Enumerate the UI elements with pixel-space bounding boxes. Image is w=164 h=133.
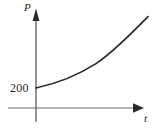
x-axis-label: t xyxy=(144,113,147,124)
y-axis-arrowhead-icon xyxy=(33,9,40,22)
exponential-curve xyxy=(36,17,148,88)
y-axis-label: P xyxy=(24,2,31,13)
graph-canvas xyxy=(0,0,164,133)
graph-figure: P t 200 xyxy=(0,0,164,133)
x-axis-arrowhead-icon xyxy=(133,103,144,113)
y-intercept-label: 200 xyxy=(10,82,29,94)
